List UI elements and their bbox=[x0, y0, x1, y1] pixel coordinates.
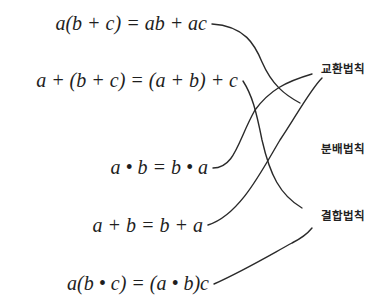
law-label-distributive: 분배법칙 bbox=[321, 142, 365, 156]
law-label-commutative: 교환법칙 bbox=[321, 62, 365, 76]
equation-commutative-addition: a + b = b + a bbox=[93, 213, 204, 237]
equation-commutative-multiplication: a • b = b • a bbox=[111, 155, 209, 179]
connector-eq2-associative bbox=[243, 81, 302, 208]
connector-eq5-associative bbox=[214, 228, 312, 284]
law-label-associative: 결합법칙 bbox=[321, 209, 365, 223]
matching-diagram: a(b + c) = ab + ac a + (b + c) = (a + b)… bbox=[0, 0, 386, 307]
equation-distributive: a(b + c) = ab + ac bbox=[55, 11, 207, 35]
equation-associative-addition: a + (b + c) = (a + b) + c bbox=[36, 68, 238, 92]
equation-associative-multiplication: a(b • c) = (a • b)c bbox=[67, 271, 209, 295]
